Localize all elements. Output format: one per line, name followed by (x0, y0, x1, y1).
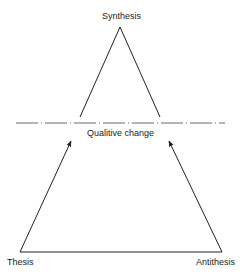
thesis-label: Thesis (7, 257, 34, 267)
synthesis-triangle (80, 27, 160, 117)
thesis-arrow (20, 141, 71, 252)
dialectic-diagram (0, 0, 243, 276)
base-trapezoid (20, 141, 222, 252)
antithesis-label: Antithesis (196, 257, 235, 267)
synthesis-label: Synthesis (102, 11, 141, 21)
antithesis-arrow (169, 141, 222, 252)
qualitative-change-label: Qualitive change (87, 128, 154, 138)
